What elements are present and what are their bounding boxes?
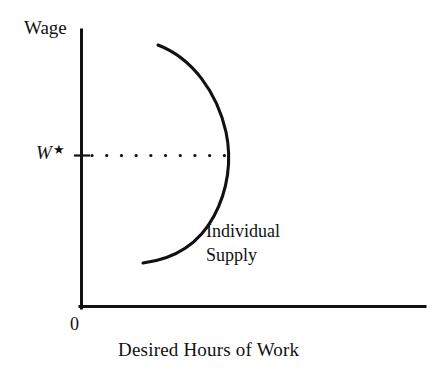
y-axis-title: Wage	[24, 18, 67, 37]
individual-supply-label: Individual Supply	[206, 219, 280, 268]
x-axis-title: Desired Hours of Work	[118, 340, 299, 359]
individual-supply-label-line2: Supply	[206, 243, 280, 267]
wage-star-superscript-icon: ★	[53, 142, 65, 157]
labor-supply-figure: Wage W★ Individual Supply 0 Desired Hour…	[0, 0, 442, 381]
wage-star-symbol: W	[36, 142, 52, 163]
wage-star-label: W★	[36, 143, 65, 162]
individual-supply-label-line1: Individual	[206, 219, 280, 243]
supply-curve-plot	[0, 0, 442, 381]
origin-label: 0	[70, 315, 79, 333]
